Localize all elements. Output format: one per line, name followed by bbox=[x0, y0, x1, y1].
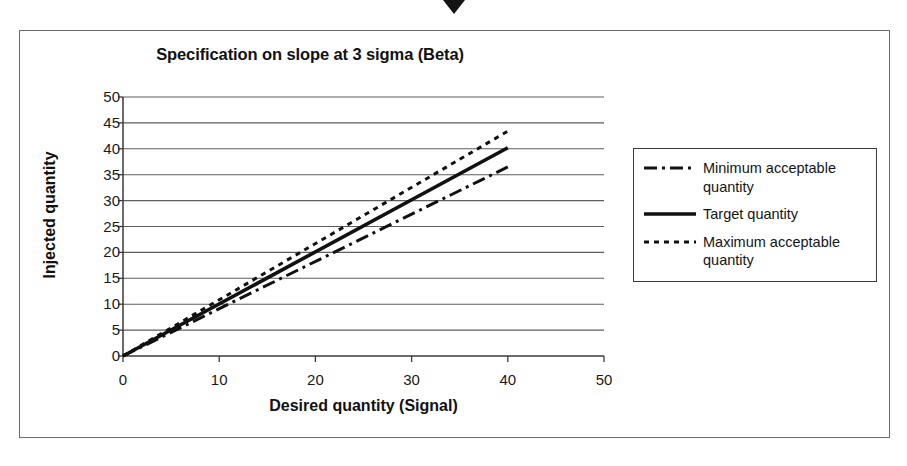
legend-label: Target quantity bbox=[703, 205, 798, 224]
x-tick-label-10: 10 bbox=[197, 372, 241, 387]
legend-item[interactable]: Maximum acceptable quantity bbox=[642, 233, 868, 270]
solid-line-swatch bbox=[642, 205, 698, 222]
legend-label: Minimum acceptable quantity bbox=[703, 159, 868, 196]
chart-legend: Minimum acceptable quantityTarget quanti… bbox=[633, 148, 877, 282]
x-tick-label-20: 20 bbox=[293, 372, 337, 387]
dashed-line-swatch bbox=[642, 233, 698, 250]
down-triangle-icon bbox=[443, 0, 465, 14]
legend-item[interactable]: Target quantity bbox=[642, 205, 868, 224]
x-tick-label-30: 30 bbox=[390, 372, 434, 387]
top-pointer-marker bbox=[0, 0, 907, 28]
dash-dot-line-swatch bbox=[642, 159, 698, 176]
x-tick-label-40: 40 bbox=[486, 372, 530, 387]
x-tick-label-50: 50 bbox=[582, 372, 626, 387]
legend-item[interactable]: Minimum acceptable quantity bbox=[642, 159, 868, 196]
legend-label: Maximum acceptable quantity bbox=[703, 233, 868, 270]
figure-frame: Specification on slope at 3 sigma (Beta)… bbox=[19, 30, 890, 438]
x-tick-label-0: 0 bbox=[101, 372, 145, 387]
